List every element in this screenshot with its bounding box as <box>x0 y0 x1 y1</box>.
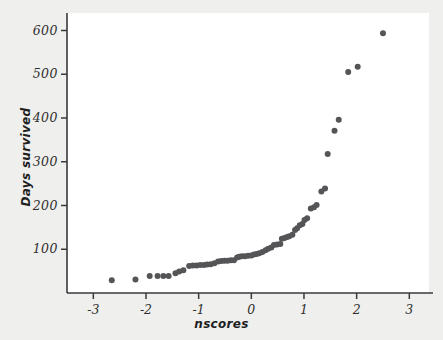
y-tick-marks <box>61 31 67 250</box>
x-tick-label: 2 <box>337 302 377 317</box>
data-point <box>355 64 361 70</box>
data-point <box>109 277 115 283</box>
x-tick-label: -3 <box>73 302 113 317</box>
data-point <box>336 117 342 123</box>
scatter-points <box>109 30 386 283</box>
y-tick-label: 100 <box>8 241 58 256</box>
data-point <box>147 273 153 279</box>
x-tick-label: -2 <box>126 302 166 317</box>
y-tick-label: 500 <box>8 66 58 81</box>
data-point <box>155 273 161 279</box>
data-point <box>380 30 386 36</box>
data-point <box>325 151 331 157</box>
data-point <box>277 241 283 247</box>
x-tick-label: 3 <box>389 302 429 317</box>
data-point <box>180 267 186 273</box>
data-point <box>345 69 351 75</box>
data-point <box>166 273 172 279</box>
data-point <box>322 185 328 191</box>
data-point <box>332 128 338 134</box>
data-point <box>160 273 166 279</box>
data-point <box>132 276 138 282</box>
y-tick-label: 400 <box>8 110 58 125</box>
qq-plot-figure: 100200300400500600 -3-2-10123 nscores Da… <box>0 0 443 340</box>
y-axis-title: Days survived <box>19 87 33 227</box>
y-tick-label: 300 <box>8 154 58 169</box>
y-tick-label: 600 <box>8 23 58 38</box>
data-point <box>314 202 320 208</box>
x-tick-label: 1 <box>284 302 324 317</box>
x-axis-title: nscores <box>0 317 443 331</box>
axes-group <box>67 13 433 293</box>
y-tick-label: 200 <box>8 198 58 213</box>
x-tick-label: 0 <box>231 302 271 317</box>
x-tick-marks <box>93 293 409 299</box>
plot-canvas <box>0 0 443 340</box>
x-tick-label: -1 <box>179 302 219 317</box>
data-point <box>304 215 310 221</box>
